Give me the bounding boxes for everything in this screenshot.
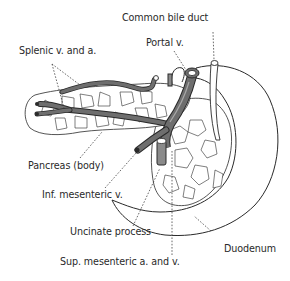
hepatic-artery-loop — [168, 68, 184, 86]
label-duodenum: Duodenum — [224, 244, 276, 254]
label-uncinate-process: Uncinate process — [70, 227, 151, 237]
label-sup-mesenteric-a-and-v: Sup. mesenteric a. and v. — [60, 257, 180, 267]
label-common-bile-duct: Common bile duct — [122, 13, 208, 23]
leader-inf-mesenteric-v — [105, 153, 136, 188]
superior-mesenteric-artery — [157, 139, 166, 166]
label-inf-mesenteric-v: Inf. mesenteric v. — [42, 190, 123, 200]
label-splenic-v-and-a: Splenic v. and a. — [19, 46, 96, 56]
leader-splenic-a — [52, 64, 80, 85]
leader-pancreas-body — [80, 132, 102, 158]
label-portal-v: Portal v. — [146, 38, 184, 48]
diagram-drawing — [0, 0, 290, 281]
label-pancreas-body: Pancreas (body) — [28, 161, 104, 171]
pancreas-anatomy-diagram: Common bile duct Portal v. Splenic v. an… — [0, 0, 290, 281]
leader-common-bile-duct — [213, 32, 214, 60]
